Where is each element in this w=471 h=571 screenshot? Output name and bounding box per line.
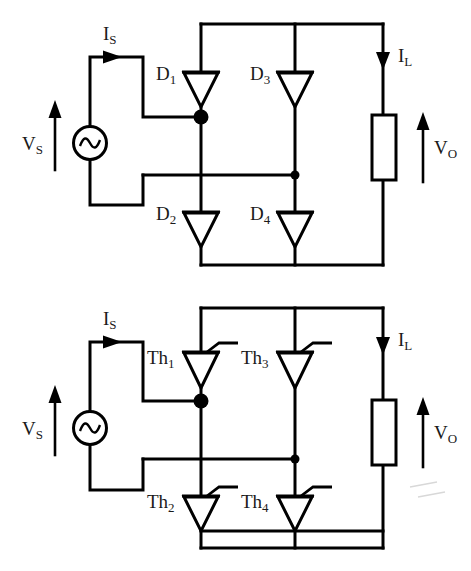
d2-label: D2 (156, 203, 176, 227)
vs-label-diode-bridge: VS (22, 133, 43, 157)
th1-triangle (184, 353, 218, 388)
load-resistor-thyristor-bridge[interactable] (372, 400, 396, 465)
d3-triangle (278, 73, 312, 107)
thyristor-th2[interactable] (182, 487, 238, 531)
ac-source-diode-bridge (74, 127, 107, 160)
load-resistor-diode-bridge[interactable] (372, 115, 396, 180)
scan-artifact (410, 482, 445, 497)
source-bottom-branch (90, 159, 143, 205)
thyristor-th1[interactable] (182, 343, 238, 388)
th3-triangle (278, 353, 312, 388)
vo-label-diode-bridge: VO (434, 137, 457, 161)
il-arrow-diode-bridge (376, 52, 390, 70)
node-dot-ac-negative (291, 171, 300, 180)
il-arrow-thyristor-bridge (376, 337, 390, 355)
d2-triangle (184, 213, 218, 247)
diode-d2[interactable] (182, 212, 220, 247)
vo-arrow-head (417, 112, 430, 130)
is-arrow-thyristor-bridge (103, 336, 122, 349)
is-label-diode-bridge: IS (103, 23, 117, 47)
d3-label: D3 (250, 63, 270, 87)
is-arrow-head (103, 51, 122, 64)
source-top-branch (90, 57, 201, 127)
vs-label-thyristor-bridge: VS (22, 418, 43, 442)
d1-label: D1 (156, 63, 176, 87)
node-dot-ac-negative-2 (291, 455, 300, 464)
th2-label: Th2 (147, 491, 175, 515)
diode-bridge-wiring (90, 24, 383, 265)
diode-d1[interactable] (182, 72, 220, 107)
thyristor-th3[interactable] (276, 343, 332, 388)
vo-arrow-diode-bridge (417, 112, 430, 182)
diode-d4[interactable] (276, 212, 314, 247)
th2-triangle (184, 497, 218, 531)
th4-label: Th4 (241, 491, 269, 515)
il-arrow-head-2 (376, 337, 390, 355)
th3-label: Th3 (241, 347, 269, 371)
th1-label: Th1 (147, 347, 175, 371)
vs-arrow-diode-bridge (49, 100, 62, 170)
th4-triangle (278, 497, 312, 531)
ac-source-thyristor-bridge (74, 412, 107, 445)
il-label-diode-bridge: IL (398, 45, 412, 69)
vo-label-thyristor-bridge: VO (434, 422, 457, 446)
il-label-thyristor-bridge: IL (398, 329, 412, 353)
vo-arrow-thyristor-bridge (417, 397, 430, 467)
d1-triangle (184, 73, 218, 107)
d4-triangle (278, 213, 312, 247)
diode-d3[interactable] (276, 72, 314, 107)
is-label-thyristor-bridge: IS (103, 308, 117, 332)
is-arrow-head-2 (103, 336, 122, 349)
vs-arrow-thyristor-bridge (49, 385, 62, 455)
vs-arrow-head (49, 100, 62, 118)
vs-arrow-head-2 (49, 385, 62, 403)
circuit-diagram-root: VS IS D1 D3 D2 (0, 0, 471, 571)
is-arrow-diode-bridge (103, 51, 122, 64)
circuit-canvas: VS IS D1 D3 D2 (0, 0, 471, 571)
d4-label: D4 (250, 203, 271, 227)
thyristor-th4[interactable] (276, 487, 332, 531)
node-dot-ac-positive (194, 110, 209, 125)
vo-arrow-head-2 (417, 397, 430, 415)
source-bottom-branch-2 (90, 444, 143, 490)
node-dot-ac-positive-2 (194, 394, 209, 409)
il-arrow-head (376, 52, 390, 70)
